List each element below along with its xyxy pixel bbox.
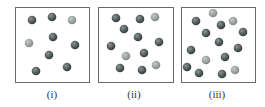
light-particle — [209, 9, 218, 18]
dark-particle — [192, 17, 201, 26]
panel-3 — [182, 8, 256, 83]
dark-particle — [234, 44, 243, 53]
light-particle — [231, 66, 240, 75]
panel-label: (i) — [47, 88, 57, 100]
light-particle — [202, 56, 211, 65]
dark-particle — [116, 64, 125, 73]
light-particle — [25, 39, 34, 48]
dark-particle — [63, 63, 72, 72]
dark-particle — [120, 25, 129, 34]
light-particle — [229, 17, 238, 26]
dark-particle — [48, 13, 57, 22]
panel-2 — [99, 8, 174, 83]
dark-particle — [221, 53, 230, 62]
panel-label: (ii) — [127, 88, 140, 100]
light-particle — [68, 16, 77, 25]
panel-label: (iii) — [209, 88, 226, 100]
dark-particle — [138, 66, 147, 75]
dark-particle — [112, 14, 121, 23]
dark-particle — [218, 70, 227, 79]
dark-particle — [49, 33, 58, 42]
dark-particle — [187, 46, 196, 55]
panel-1 — [16, 8, 90, 83]
dark-particle — [45, 51, 54, 60]
light-particle — [122, 52, 131, 61]
dark-particle — [217, 21, 226, 30]
light-particle — [151, 13, 160, 22]
dark-particle — [136, 15, 145, 24]
dark-particle — [155, 38, 164, 47]
dark-particle — [134, 33, 143, 42]
dark-particle — [28, 16, 37, 25]
dark-particle — [183, 63, 192, 72]
dark-particle — [107, 42, 116, 51]
dark-particle — [32, 67, 41, 76]
dark-particle — [202, 29, 211, 38]
dark-particle — [239, 28, 248, 37]
light-particle — [152, 61, 161, 70]
dark-particle — [71, 41, 80, 50]
dark-particle — [215, 38, 224, 47]
dark-particle — [140, 49, 149, 58]
dark-particle — [195, 69, 204, 78]
